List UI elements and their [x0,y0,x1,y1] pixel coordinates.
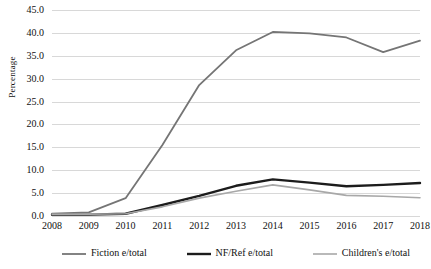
legend-label: Children's e/total [342,247,410,258]
gridline [52,216,420,217]
x-axis-tick-label: 2012 [189,220,209,232]
x-axis-tick-label: 2018 [410,220,430,232]
x-axis-tick-label: 2016 [336,220,356,232]
legend-swatch-icon [187,243,211,261]
x-axis-tick-label: 2015 [300,220,320,232]
x-axis-tick-label: 2017 [373,220,393,232]
x-axis-tick-label: 2013 [226,220,246,232]
line-chart: Percentage 0.05.010.015.020.025.030.035.… [0,0,431,269]
y-axis-tick-label: 30.0 [27,74,45,84]
plot-area [52,10,420,216]
legend-swatch-icon [313,243,337,261]
y-axis-tick-label: 20.0 [27,119,45,129]
series-lines [52,10,420,216]
chart-legend: Fiction e/totalNF/Ref e/totalChildren's … [52,243,420,261]
series-line [52,179,420,214]
x-axis-tick-label: 2014 [263,220,283,232]
legend-swatch-icon [62,243,86,261]
series-line [52,185,420,214]
legend-label: Fiction e/total [91,247,147,258]
y-axis-tick-label: 5.0 [32,188,45,198]
y-axis-tick-label: 35.0 [27,51,45,61]
legend-label: NF/Ref e/total [216,247,274,258]
y-axis-tick-label: 40.0 [27,28,45,38]
y-axis-tick-label: 15.0 [27,142,45,152]
y-axis-tick-label: 25.0 [27,97,45,107]
y-axis-tick-labels: 0.05.010.015.020.025.030.035.040.045.0 [0,10,48,216]
legend-item[interactable]: NF/Ref e/total [187,243,274,261]
legend-item[interactable]: Children's e/total [313,243,410,261]
y-axis-tick-label: 45.0 [27,5,45,15]
legend-item[interactable]: Fiction e/total [62,243,147,261]
x-axis-tick-label: 2011 [153,220,173,232]
x-axis-tick-labels: 2008200920102011201220132014201520162017… [52,220,420,234]
x-axis-tick-label: 2010 [116,220,136,232]
x-axis-tick-label: 2009 [79,220,99,232]
y-axis-tick-label: 10.0 [27,165,45,175]
x-axis-tick-label: 2008 [42,220,62,232]
